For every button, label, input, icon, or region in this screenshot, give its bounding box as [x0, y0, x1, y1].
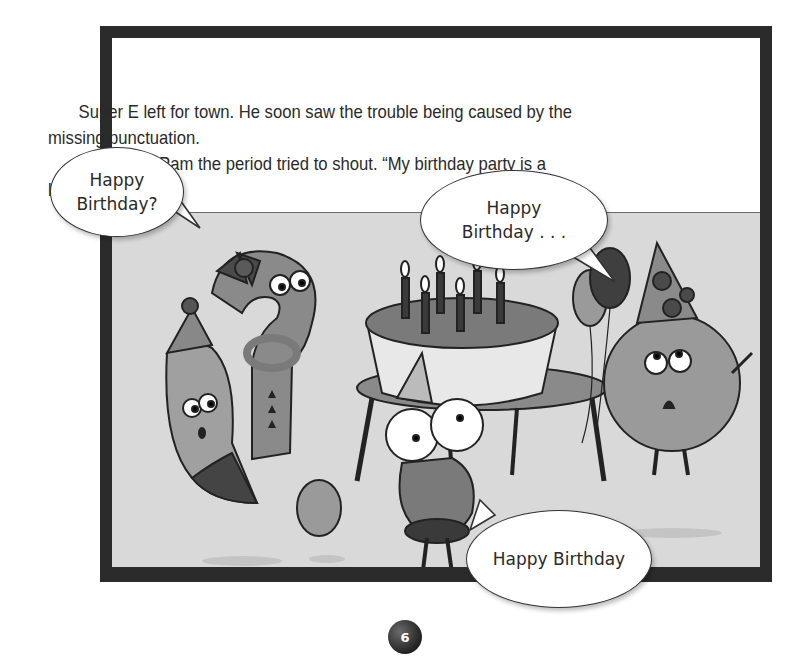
bubble-line: Happy: [76, 168, 157, 192]
bubble-line: Birthday . . .: [462, 220, 567, 244]
page-number: 6: [400, 630, 409, 645]
birthday-cake: [366, 254, 558, 406]
bubble-line: Happy: [462, 196, 567, 220]
speech-bubble-super-e: Happy Birthday: [466, 510, 652, 608]
party-illustration: [112, 212, 760, 567]
speech-bubble-pam: Happy Birthday . . .: [420, 170, 608, 270]
comma-character: [166, 298, 257, 503]
story-paragraph: Super E left for town. He soon saw the t…: [48, 99, 579, 151]
bubble-line: Happy Birthday: [493, 547, 625, 571]
bubble-line: Birthday?: [76, 192, 157, 216]
party-scene-art: [112, 213, 760, 567]
speech-bubble-question: Happy Birthday?: [50, 147, 184, 237]
page-number-badge: 6: [388, 620, 422, 654]
